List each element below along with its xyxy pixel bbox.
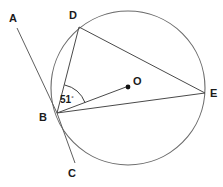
angle-measure-label: 51° — [60, 94, 74, 105]
label-point-c: C — [68, 167, 76, 179]
label-point-d: D — [69, 9, 77, 21]
label-point-a: A — [9, 12, 17, 24]
degree-symbol: ° — [71, 95, 74, 101]
chord-be — [57, 93, 205, 113]
label-point-o: O — [133, 75, 142, 87]
geometry-figure: A D B E O C 51° — [0, 0, 223, 187]
geometry-canvas: A D B E O C 51° — [0, 0, 223, 187]
label-point-e: E — [210, 87, 217, 99]
ray-ab — [17, 28, 57, 113]
angle-value: 51 — [60, 94, 72, 105]
ray-bc — [57, 113, 75, 163]
label-point-b: B — [39, 111, 47, 123]
center-dot-o — [126, 85, 131, 90]
